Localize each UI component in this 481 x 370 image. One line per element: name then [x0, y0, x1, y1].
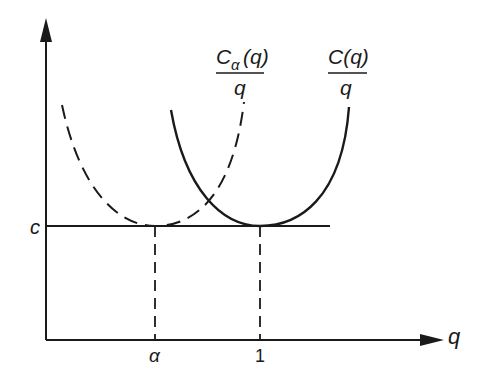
- x-tick-alpha: α: [149, 345, 161, 366]
- label-c-alpha-over-q: C α (q) q: [216, 45, 269, 99]
- y-axis-label: c: [30, 216, 40, 238]
- svg-text:q: q: [340, 76, 352, 99]
- y-axis-arrow-icon: [40, 18, 52, 42]
- curve-c-over-q: [171, 107, 349, 226]
- label-c-over-q: C(q) q: [328, 45, 369, 99]
- svg-text:(q): (q): [243, 45, 269, 68]
- svg-text:C: C: [216, 45, 232, 68]
- x-axis-arrow-icon: [420, 334, 444, 346]
- x-tick-one: 1: [255, 346, 265, 366]
- svg-text:q: q: [234, 76, 246, 99]
- x-axis-label: q: [448, 324, 461, 349]
- svg-text:C(q): C(q): [328, 45, 369, 68]
- average-cost-diagram: c q α 1 C α (q) q C(q) q: [0, 0, 481, 370]
- svg-text:α: α: [231, 56, 240, 73]
